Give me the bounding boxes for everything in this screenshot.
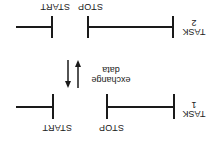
task2-segment-1 bbox=[88, 27, 174, 29]
task2-stop-label: STOP bbox=[78, 2, 103, 11]
task1-segment-1 bbox=[107, 107, 175, 109]
task1-label-line2: 1 bbox=[179, 100, 209, 109]
task2-segment-2 bbox=[16, 27, 53, 29]
task1-label: TASK 1 bbox=[179, 100, 209, 118]
exchange-data-label: exchange data bbox=[86, 65, 136, 85]
exchange-line1: exchange bbox=[86, 75, 136, 85]
task1-stop-label: STOP bbox=[99, 123, 124, 132]
task1-stop-tick bbox=[107, 94, 109, 119]
task2-stop-tick bbox=[88, 16, 90, 38]
arrow-up-icon bbox=[65, 60, 71, 88]
timing-diagram: TASK 1 STOP START exchange data TASK 2 S… bbox=[0, 0, 218, 149]
task2-label-line1: TASK bbox=[179, 27, 209, 36]
arrow-down-icon bbox=[75, 60, 81, 88]
task2-label: TASK 2 bbox=[179, 18, 209, 36]
exchange-line2: data bbox=[86, 65, 136, 75]
task1-segment-2 bbox=[16, 107, 54, 109]
exchange-arrows bbox=[62, 58, 84, 90]
task1-start-label: START bbox=[42, 123, 72, 132]
task1-label-line1: TASK bbox=[179, 109, 209, 118]
task2-label-line2: 2 bbox=[179, 18, 209, 27]
task2-start-label: START bbox=[40, 2, 70, 11]
